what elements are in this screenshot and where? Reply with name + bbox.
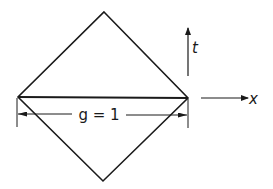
x-axis-label: x: [248, 90, 258, 108]
light-cone-diagram: t x g = 1: [0, 0, 273, 189]
t-axis-label: t: [192, 39, 199, 57]
dimension-label: g = 1: [78, 106, 119, 124]
horizontal-diagonal: [18, 97, 188, 98]
